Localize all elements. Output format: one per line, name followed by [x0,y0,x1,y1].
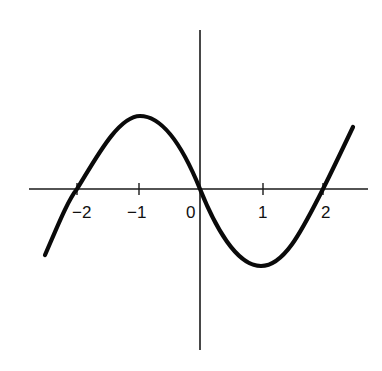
x-tick-label: −1 [127,204,146,221]
x-tick-label: 1 [258,204,267,221]
x-tick-label: 0 [186,204,195,221]
x-tick-label: 2 [321,204,330,221]
cubic-function-plot [0,0,382,371]
x-tick-label: −2 [72,204,91,221]
function-curve [45,116,353,266]
